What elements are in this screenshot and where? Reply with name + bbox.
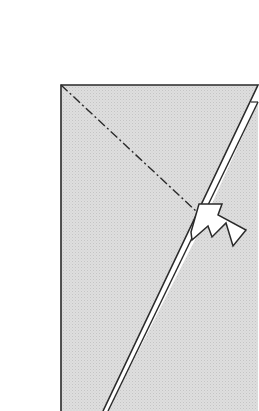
origami-diagram [0,0,259,411]
